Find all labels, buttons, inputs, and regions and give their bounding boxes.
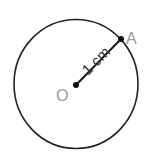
point-a-label: A <box>126 30 137 47</box>
point-a <box>118 36 124 42</box>
diagram-canvas: O A 1 cm <box>0 0 147 157</box>
center-point-o <box>73 82 79 88</box>
circle-diagram: O A 1 cm <box>0 0 147 157</box>
radius-label: 1 cm <box>78 43 113 78</box>
center-label: O <box>56 87 68 104</box>
